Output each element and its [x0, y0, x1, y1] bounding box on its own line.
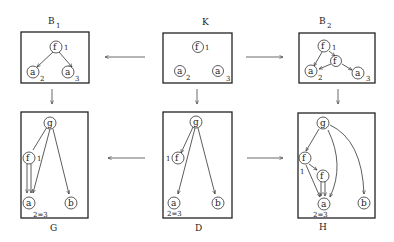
node-a-label: a: [321, 199, 327, 209]
node-a3-index: 3: [75, 75, 79, 83]
node-a2-index: 2: [318, 74, 322, 82]
node-a-label: a: [26, 198, 32, 208]
panel-b1: B 1 f 1 a 2 a 3: [21, 16, 89, 83]
edge-f-a3: [59, 52, 72, 67]
node-b-label: b: [361, 198, 367, 208]
node-a2-index: 2: [186, 74, 190, 82]
edge-g-b: [53, 129, 69, 194]
panel-g: g f 1 a b 2=3 G: [21, 112, 88, 233]
node-f-index: 1: [205, 44, 209, 52]
edge-f1-a2: [314, 52, 322, 66]
node-a-label: a: [171, 198, 177, 208]
node-a2-label: a: [177, 66, 183, 76]
panel-d-title: D: [195, 223, 202, 233]
panel-b1-subscript: 1: [56, 22, 60, 30]
node-g-label: g: [47, 118, 53, 128]
node-a3-label: a: [215, 66, 221, 76]
equality-label: 2=3: [313, 211, 328, 219]
panel-b2: B 2 f 1 f a 2 a 3: [299, 16, 375, 83]
node-a3-index: 3: [226, 75, 230, 83]
node-a3-label: a: [355, 68, 361, 78]
panel-g-title: G: [50, 223, 57, 233]
edge-g-a: [33, 129, 50, 193]
edge-g-f: [33, 127, 47, 150]
edge-g-f: [181, 127, 193, 153]
edge-f1-a: [306, 165, 320, 197]
node-a2-label: a: [30, 67, 36, 77]
node-g-label: g: [193, 117, 199, 127]
equality-label: 2=3: [167, 210, 182, 218]
edge-g-f1: [306, 129, 319, 151]
panel-h: g f 1 f a b 2=3 H: [298, 113, 375, 232]
edge-g-b: [198, 128, 215, 194]
panel-k: K f 1 a 2 a 3: [163, 17, 232, 83]
node-a3-label: a: [65, 67, 71, 77]
node-a3-index: 3: [366, 75, 370, 83]
edge-f1-f2: [309, 164, 317, 170]
edge-f2-a2: [319, 64, 331, 69]
panel-b1-title: B: [48, 16, 55, 26]
node-b-label: b: [68, 198, 74, 208]
edge-f-a2: [37, 52, 53, 67]
node-a2-label: a: [308, 66, 314, 76]
node-f1-index: 1: [300, 168, 304, 176]
node-b-label: b: [215, 198, 221, 208]
edge-f2-a3: [342, 64, 352, 70]
panel-k-title: K: [202, 17, 209, 27]
node-f1-index: 1: [332, 44, 336, 52]
node-f-index: 1: [64, 44, 68, 52]
panel-h-title: H: [319, 222, 327, 232]
equality-label: 2=3: [33, 211, 48, 219]
panel-b2-subscript: 2: [327, 22, 331, 30]
node-f-index: 1: [166, 155, 170, 163]
node-g-label: g: [320, 118, 326, 128]
node-f-index: 1: [37, 155, 41, 163]
node-a2-index: 2: [40, 75, 44, 83]
edge-g-a: [328, 130, 337, 197]
panel-d: g f 1 a b 2=3 D: [163, 112, 232, 233]
pushout-diagram: B 1 f 1 a 2 a 3 K f 1 a 2 a 3 B 2: [0, 0, 394, 242]
panel-b2-title: B: [319, 16, 326, 26]
